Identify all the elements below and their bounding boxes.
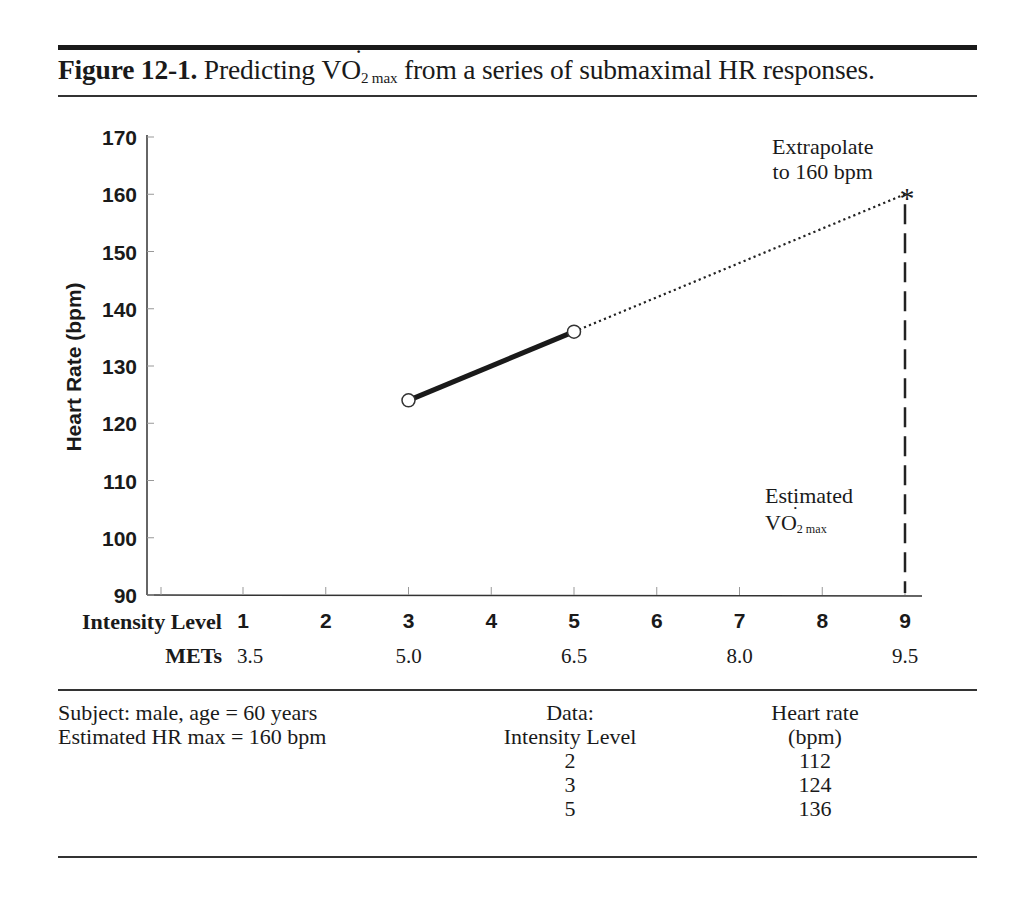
extrapolation-dotted-line <box>574 194 905 331</box>
x-tick-label: 8 <box>816 609 828 632</box>
table-cell: 124 <box>715 773 915 797</box>
asterisk-marker-icon: * <box>900 181 915 214</box>
x-tick-label: 3 <box>403 609 415 632</box>
x-tick-label: 7 <box>734 609 746 632</box>
table-cell: 5 <box>470 797 670 821</box>
data-point-marker <box>402 394 415 407</box>
subject-info: Subject: male, age = 60 years Estimated … <box>58 701 326 749</box>
y-tick-label: 110 <box>103 470 137 493</box>
table-header: Heart rate <box>715 701 915 725</box>
table-cell: 136 <box>715 797 915 821</box>
x-axis-label-intensity: Intensity Level <box>82 609 222 634</box>
x-tick-label: 1 <box>237 609 249 632</box>
data-table-hr-column: Heart rate (bpm) 112 124 136 <box>715 701 915 821</box>
mets-tick-label: 9.5 <box>892 644 918 668</box>
measured-hr-line <box>409 332 575 401</box>
y-tick-label: 90 <box>114 584 137 607</box>
y-tick-label: 140 <box>102 298 137 321</box>
y-tick-label: 150 <box>102 241 137 264</box>
mets-tick-label: 3.5 <box>237 644 263 668</box>
estimated-vo2max-annotation: Estimated ˙VO2 max <box>765 483 853 542</box>
x-tick-label: 9 <box>899 609 911 632</box>
y-tick-label: 100 <box>102 527 137 550</box>
data-point-marker <box>568 325 581 338</box>
mets-tick-label: 8.0 <box>726 644 752 668</box>
y-axis-label: Heart Rate (bpm) <box>62 282 85 451</box>
table-cell: 2 <box>470 749 670 773</box>
mets-tick-label: 5.0 <box>395 644 421 668</box>
y-tick-label: 130 <box>102 355 137 378</box>
x-tick-label: 5 <box>568 609 580 632</box>
extrapolate-annotation: Extrapolate to 160 bpm <box>772 134 873 184</box>
table-cell: 3 <box>470 773 670 797</box>
x-tick-label: 6 <box>651 609 663 632</box>
table-header: Data: <box>470 701 670 725</box>
x-axis <box>147 595 922 596</box>
y-tick-label: 160 <box>102 183 137 206</box>
table-cell: 112 <box>715 749 915 773</box>
table-header: (bpm) <box>715 725 915 749</box>
x-tick-label: 4 <box>485 609 497 632</box>
y-tick-label: 120 <box>102 412 137 435</box>
data-table-intensity-column: Data: Intensity Level 2 3 5 <box>470 701 670 821</box>
x-tick-label: 2 <box>320 609 332 632</box>
x-axis-label-mets: METs <box>165 643 222 668</box>
table-header: Intensity Level <box>470 725 670 749</box>
y-tick-label: 170 <box>102 126 137 149</box>
mets-tick-label: 6.5 <box>561 644 587 668</box>
dot-accent-icon: ˙ <box>792 504 799 524</box>
